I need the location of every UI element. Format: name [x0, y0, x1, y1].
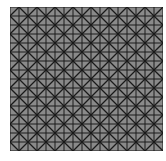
- triangle-grid-pattern: [10, 7, 163, 151]
